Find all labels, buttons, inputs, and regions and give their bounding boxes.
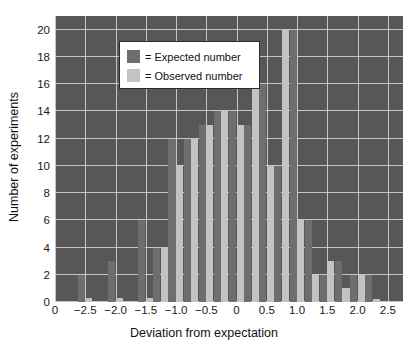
x-tick-label: 0.5 [259, 304, 275, 316]
bar-observed [191, 139, 198, 302]
bar-expected [335, 261, 342, 302]
bar-expected [229, 111, 236, 302]
bar-observed [206, 125, 213, 302]
x-tick-label: −2.5 [74, 304, 97, 316]
x-tick-label: −0.5 [195, 304, 218, 316]
x-tick-label: 0 [233, 304, 239, 316]
chart-figure: 02468101214161820 Number of experiments … [0, 0, 408, 362]
bar-observed [221, 111, 228, 302]
bar-expected [320, 275, 327, 302]
x-tick-label: 1.0 [289, 304, 305, 316]
bar-expected [244, 125, 251, 302]
bar-observed [252, 84, 259, 302]
bar-expected [350, 275, 357, 302]
bar-expected [274, 166, 281, 302]
bar-expected [78, 275, 85, 302]
bar-expected [108, 261, 115, 302]
bar-observed [342, 288, 349, 302]
bar-observed [237, 125, 244, 302]
legend-item-expected: = Expected number [127, 47, 252, 66]
bar-observed [327, 261, 334, 302]
bar-expected [199, 125, 206, 302]
expected-swatch-icon [127, 50, 140, 63]
chart-legend: = Expected number = Observed number [119, 41, 260, 89]
y-axis-title: Number of experiments [7, 57, 21, 257]
plot-area: = Expected number = Observed number [55, 16, 403, 302]
bar-observed [176, 166, 183, 302]
x-axis-title: Deviation from expectation [0, 326, 408, 340]
bar-expected [365, 275, 372, 302]
x-tick-label: 1.5 [319, 304, 335, 316]
bar-observed [161, 248, 168, 302]
x-tick-label: 0 [52, 304, 58, 316]
x-tick-label: 2.5 [380, 304, 396, 316]
bar-expected [153, 248, 160, 302]
y-tick-label: 0 [6, 296, 50, 308]
observed-swatch-icon [127, 69, 140, 82]
bar-observed [267, 166, 274, 302]
legend-label-observed: = Observed number [145, 70, 243, 82]
x-tick-label: −1.0 [165, 304, 188, 316]
bar-expected [305, 220, 312, 302]
bar-expected [138, 220, 145, 302]
bar-observed [358, 275, 365, 302]
y-axis-title-wrapper: Number of experiments [0, 0, 1, 1]
bar-observed [85, 298, 92, 302]
bar-observed [146, 298, 153, 302]
x-tick-label: −2.0 [104, 304, 127, 316]
bar-observed [116, 298, 123, 302]
bar-expected [290, 30, 297, 302]
legend-item-observed: = Observed number [127, 66, 252, 85]
x-tick-label: 2.0 [350, 304, 366, 316]
bar-observed [297, 220, 304, 302]
bar-expected [259, 84, 266, 302]
bar-expected [214, 111, 221, 302]
bar-expected [184, 139, 191, 302]
bar-observed [282, 30, 289, 302]
bar-observed [312, 275, 319, 302]
x-tick-label: −1.5 [134, 304, 157, 316]
x-axis-tick-labels: 0−2.5−2.0−1.5−1.0−0.500.51.01.52.02.5 [55, 304, 403, 322]
legend-label-expected: = Expected number [145, 51, 241, 63]
y-tick-label: 2 [6, 269, 50, 281]
y-tick-label: 20 [6, 24, 50, 36]
bar-expected [168, 139, 175, 302]
bar-observed [373, 299, 380, 302]
